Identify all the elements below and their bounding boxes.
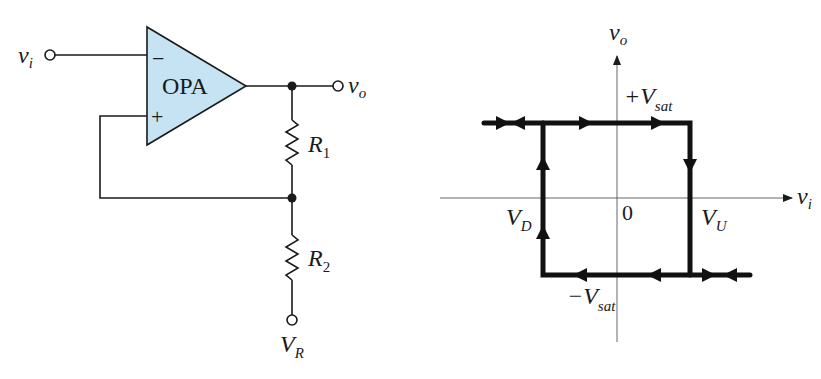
comparator-circuit [45,27,343,325]
arrow-left-icon [647,268,661,282]
high-state-path [484,123,690,275]
reference-terminal [287,315,297,325]
low-state-path [543,123,750,275]
direction-arrows [496,116,737,282]
arrow-right-icon [496,116,510,130]
feedback-wire [100,116,292,198]
output-terminal [333,81,343,91]
y-axis-label: vo [609,19,628,48]
arrow-left-icon [511,116,525,130]
diagram-canvas: OPA − + vi vo R1 R2 VR [0,0,821,379]
arrow-up-icon [536,156,550,170]
input-terminal [45,50,55,60]
x-axis-label: vi [797,183,812,212]
opamp-label: OPA [162,73,208,99]
arrow-right-icon [651,116,665,130]
input-label: vi [18,42,33,71]
positive-saturation-label: +Vsat [624,83,673,114]
resistor-r1 [286,120,298,165]
r2-label: R2 [307,245,330,275]
inverting-input-sign: − [152,46,164,71]
arrow-up-icon [536,225,550,239]
arrow-right-icon [579,116,593,130]
resistor-r2 [286,235,298,280]
arrow-left-icon [573,268,587,282]
reference-label: VR [280,331,304,361]
output-label: vo [348,72,367,101]
noninverting-input-sign: + [151,104,163,129]
arrow-right-icon [702,268,716,282]
arrow-down-icon [683,159,697,173]
arrow-left-icon [723,268,737,282]
r1-label: R1 [307,131,330,161]
origin-label: 0 [622,200,633,225]
upper-threshold-label: VU [701,204,728,234]
negative-saturation-label: −Vsat [567,283,616,314]
transfer-characteristic [440,56,792,342]
lower-threshold-label: VD [506,204,532,234]
